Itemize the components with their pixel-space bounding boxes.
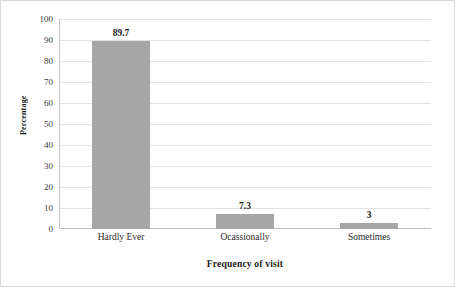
- bar-slot: 89.7: [59, 19, 183, 229]
- y-tick-label: 20: [44, 182, 53, 192]
- bar-slot: 3: [307, 19, 431, 229]
- x-tick-label: Hardly Ever: [59, 232, 183, 242]
- y-tick-label: 90: [44, 35, 53, 45]
- y-tick-label: 10: [44, 203, 53, 213]
- y-tick-label: 40: [44, 140, 53, 150]
- bar-value-label: 7.3: [239, 201, 251, 211]
- y-axis-tick-labels: 100 90 80 70 60 50 40 30 20 10 0: [25, 19, 53, 229]
- bar-series: 89.7 7.3 3: [59, 19, 431, 229]
- y-tick-label: 100: [40, 14, 54, 24]
- y-tick-label: 70: [44, 77, 53, 87]
- y-tick-label: 30: [44, 161, 53, 171]
- x-tick-label: Ocassionally: [183, 232, 307, 242]
- y-tick-label: 80: [44, 56, 53, 66]
- bar[interactable]: [340, 223, 398, 229]
- x-tick-label: Sometimes: [307, 232, 431, 242]
- x-axis-title: Frequency of visit: [59, 259, 431, 269]
- x-axis-tick-labels: Hardly Ever Ocassionally Sometimes: [59, 232, 431, 242]
- bar-value-label: 89.7: [113, 28, 130, 38]
- y-tick-label: 0: [49, 224, 54, 234]
- bar[interactable]: [216, 214, 274, 229]
- bar-value-label: 3: [367, 210, 372, 220]
- plot-area: 89.7 7.3 3: [59, 19, 431, 229]
- bar-slot: 7.3: [183, 19, 307, 229]
- y-tick-label: 60: [44, 98, 53, 108]
- y-tick-label: 50: [44, 119, 53, 129]
- bar[interactable]: [92, 41, 150, 229]
- bar-chart-figure: Percentage 100 90 80 70 60 50 40 30 20 1…: [0, 0, 455, 287]
